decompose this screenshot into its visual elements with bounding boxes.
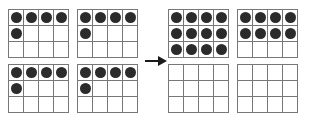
grid-cell-empty[interactable] <box>39 97 54 113</box>
right-grid-2[interactable] <box>237 9 298 58</box>
grid-cell-empty[interactable] <box>283 42 298 58</box>
grid-cell-filled[interactable] <box>123 10 138 26</box>
grid-cell-empty[interactable] <box>24 97 39 113</box>
grid-cell-filled[interactable] <box>268 10 283 26</box>
grid-cell-empty[interactable] <box>238 65 253 81</box>
grid-cell-empty[interactable] <box>54 42 69 58</box>
grid-cell-filled[interactable] <box>214 10 229 26</box>
grid-cell-empty[interactable] <box>93 26 108 42</box>
grid-cell-empty[interactable] <box>123 97 138 113</box>
grid-cell-empty[interactable] <box>39 26 54 42</box>
grid-cell-empty[interactable] <box>169 81 184 97</box>
grid-cell-filled[interactable] <box>169 10 184 26</box>
grid-cell-empty[interactable] <box>93 97 108 113</box>
grid-cell-empty[interactable] <box>169 65 184 81</box>
right-grid-1[interactable] <box>168 9 229 58</box>
grid-cell-filled[interactable] <box>169 42 184 58</box>
grid-cell-empty[interactable] <box>108 26 123 42</box>
grid-cell-empty[interactable] <box>93 42 108 58</box>
grid-cell-empty[interactable] <box>24 81 39 97</box>
grid-cell-filled[interactable] <box>199 42 214 58</box>
grid-cell-empty[interactable] <box>268 42 283 58</box>
grid-cell-filled[interactable] <box>199 10 214 26</box>
grid-cell-empty[interactable] <box>78 42 93 58</box>
grid-cell-filled[interactable] <box>184 10 199 26</box>
grid-cell-empty[interactable] <box>283 81 298 97</box>
grid-cell-filled[interactable] <box>283 26 298 42</box>
grid-cell-filled[interactable] <box>9 10 24 26</box>
grid-cell-empty[interactable] <box>214 65 229 81</box>
grid-cell-empty[interactable] <box>54 97 69 113</box>
grid-cell-filled[interactable] <box>24 65 39 81</box>
grid-cell-filled[interactable] <box>54 65 69 81</box>
grid-cell-empty[interactable] <box>93 81 108 97</box>
grid-cell-filled[interactable] <box>238 26 253 42</box>
grid-cell-empty[interactable] <box>253 81 268 97</box>
grid-cell-empty[interactable] <box>214 81 229 97</box>
grid-cell-filled[interactable] <box>123 65 138 81</box>
grid-cell-empty[interactable] <box>238 42 253 58</box>
grid-cell-empty[interactable] <box>283 65 298 81</box>
grid-cell-empty[interactable] <box>253 42 268 58</box>
grid-cell-filled[interactable] <box>24 10 39 26</box>
grid-cell-empty[interactable] <box>39 42 54 58</box>
grid-cell-filled[interactable] <box>184 42 199 58</box>
grid-cell-empty[interactable] <box>54 26 69 42</box>
grid-cell-empty[interactable] <box>253 97 268 113</box>
grid-cell-filled[interactable] <box>253 10 268 26</box>
left-grid-3[interactable] <box>8 64 69 113</box>
grid-cell-filled[interactable] <box>93 10 108 26</box>
grid-cell-filled[interactable] <box>253 26 268 42</box>
left-grid-1[interactable] <box>8 9 69 58</box>
grid-cell-filled[interactable] <box>184 26 199 42</box>
grid-cell-filled[interactable] <box>78 26 93 42</box>
grid-cell-filled[interactable] <box>214 42 229 58</box>
grid-cell-empty[interactable] <box>268 97 283 113</box>
grid-cell-empty[interactable] <box>108 97 123 113</box>
grid-cell-filled[interactable] <box>78 65 93 81</box>
grid-cell-empty[interactable] <box>199 97 214 113</box>
grid-cell-filled[interactable] <box>54 10 69 26</box>
grid-cell-filled[interactable] <box>9 81 24 97</box>
grid-cell-filled[interactable] <box>78 10 93 26</box>
grid-cell-filled[interactable] <box>268 26 283 42</box>
grid-cell-empty[interactable] <box>24 42 39 58</box>
grid-cell-filled[interactable] <box>78 81 93 97</box>
grid-cell-empty[interactable] <box>9 42 24 58</box>
grid-cell-filled[interactable] <box>108 65 123 81</box>
grid-cell-filled[interactable] <box>93 65 108 81</box>
right-grid-4[interactable] <box>237 64 298 113</box>
grid-cell-empty[interactable] <box>238 81 253 97</box>
grid-cell-empty[interactable] <box>108 81 123 97</box>
grid-cell-filled[interactable] <box>108 10 123 26</box>
grid-cell-empty[interactable] <box>268 65 283 81</box>
right-grid-3[interactable] <box>168 64 229 113</box>
grid-cell-filled[interactable] <box>9 26 24 42</box>
grid-cell-empty[interactable] <box>184 65 199 81</box>
grid-cell-filled[interactable] <box>39 65 54 81</box>
grid-cell-filled[interactable] <box>9 65 24 81</box>
grid-cell-empty[interactable] <box>108 42 123 58</box>
grid-cell-empty[interactable] <box>9 97 24 113</box>
grid-cell-empty[interactable] <box>253 65 268 81</box>
grid-cell-empty[interactable] <box>214 97 229 113</box>
grid-cell-empty[interactable] <box>199 81 214 97</box>
grid-cell-filled[interactable] <box>39 10 54 26</box>
grid-cell-empty[interactable] <box>169 97 184 113</box>
grid-cell-empty[interactable] <box>238 97 253 113</box>
grid-cell-filled[interactable] <box>199 26 214 42</box>
grid-cell-filled[interactable] <box>169 26 184 42</box>
left-grid-2[interactable] <box>77 9 138 58</box>
grid-cell-empty[interactable] <box>24 26 39 42</box>
grid-cell-empty[interactable] <box>199 65 214 81</box>
grid-cell-empty[interactable] <box>123 81 138 97</box>
grid-cell-empty[interactable] <box>184 81 199 97</box>
left-grid-4[interactable] <box>77 64 138 113</box>
grid-cell-empty[interactable] <box>283 97 298 113</box>
grid-cell-empty[interactable] <box>123 26 138 42</box>
grid-cell-empty[interactable] <box>39 81 54 97</box>
grid-cell-empty[interactable] <box>123 42 138 58</box>
grid-cell-empty[interactable] <box>268 81 283 97</box>
grid-cell-empty[interactable] <box>54 81 69 97</box>
grid-cell-filled[interactable] <box>238 10 253 26</box>
